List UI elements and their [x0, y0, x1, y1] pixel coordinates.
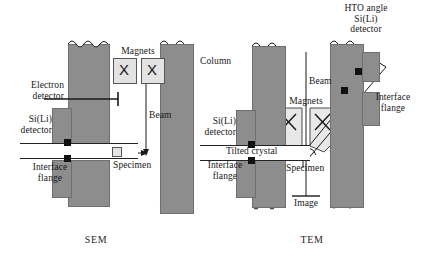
tem-label-si-li-detector: Si(Li) detector	[186, 116, 236, 137]
tem-hto-marker-lower	[341, 87, 348, 94]
tem-label-hto-detector: HTO angle Si(Li) detector	[328, 3, 404, 35]
sem-label-electron-detector: Electron detector	[0, 80, 64, 101]
tem-label-image: Image	[282, 198, 330, 209]
tem-label-beam: Beam	[309, 76, 349, 87]
tem-label-column: Column	[200, 56, 258, 67]
tem-right-flange-block-upper	[362, 52, 380, 82]
sem-snout-marker-lower	[64, 155, 71, 162]
figure-root: X X Magnets Electron detector Si(Li) det…	[0, 0, 421, 261]
tem-label-specimen: Specimen	[286, 163, 350, 174]
sem-label-magnets: Magnets	[106, 46, 170, 57]
tem-caption: TEM	[282, 234, 342, 245]
sem-specimen-holder	[112, 147, 122, 157]
sem-caption: SEM	[66, 234, 126, 245]
tem-label-magnets: Magnets	[274, 96, 338, 107]
tem-label-interface-flange-left: Interface flange	[196, 160, 254, 181]
tem-label-tilted-crystal: Tilted crystal	[226, 146, 302, 157]
tem-label-interface-flange-right: Interface flange	[364, 92, 421, 113]
tem-hto-marker-upper	[355, 68, 362, 75]
sem-magnet-glyph-2: X	[141, 62, 163, 78]
tem-column-left-lower	[252, 160, 286, 208]
sem-label-beam: Beam	[149, 110, 189, 121]
sem-snout-marker-upper	[64, 139, 71, 146]
sem-magnet-glyph-1: X	[113, 62, 135, 78]
sem-label-specimen: Specimen	[113, 160, 177, 171]
sem-label-interface-flange: Interface flange	[18, 162, 82, 183]
sem-label-si-li-detector: Si(Li) detector	[0, 114, 52, 135]
